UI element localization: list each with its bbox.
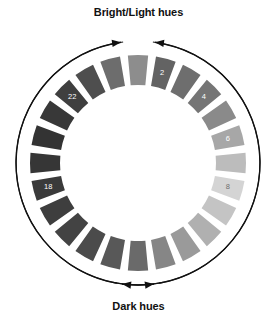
wheel-segment-12 <box>151 236 176 269</box>
wheel-segment-24 <box>100 57 125 90</box>
wheel-diagram-svg: 24681822 <box>0 0 277 322</box>
hue-value-wheel-figure: Bright/Light hues 24681822 Dark hues <box>0 0 277 322</box>
wheel-segment-6 <box>211 125 244 150</box>
dark-hues-label: Dark hues <box>0 300 277 312</box>
arc-gap-mask <box>122 35 153 49</box>
wheel-segment-2 <box>151 57 176 90</box>
wheel-segment-7 <box>216 153 246 173</box>
wheel-segment-14 <box>100 236 125 269</box>
wheel-segment-18 <box>32 176 65 201</box>
wheel-segment-13 <box>128 241 148 271</box>
arrowhead-icon <box>155 40 164 47</box>
color-segments-group <box>30 55 246 271</box>
wheel-segment-8 <box>211 176 244 201</box>
wheel-segment-1 <box>128 55 148 85</box>
arrowhead-icon <box>112 40 121 47</box>
wheel-segment-19 <box>30 153 60 173</box>
wheel-segment-20 <box>32 125 65 150</box>
